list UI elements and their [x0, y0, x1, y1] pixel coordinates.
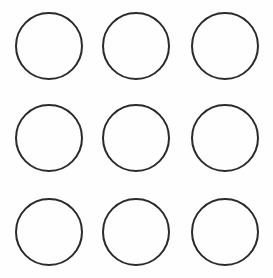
canvas-background	[0, 0, 273, 278]
circle-grid-diagram	[0, 0, 273, 278]
circle-grid-canvas	[0, 0, 273, 278]
